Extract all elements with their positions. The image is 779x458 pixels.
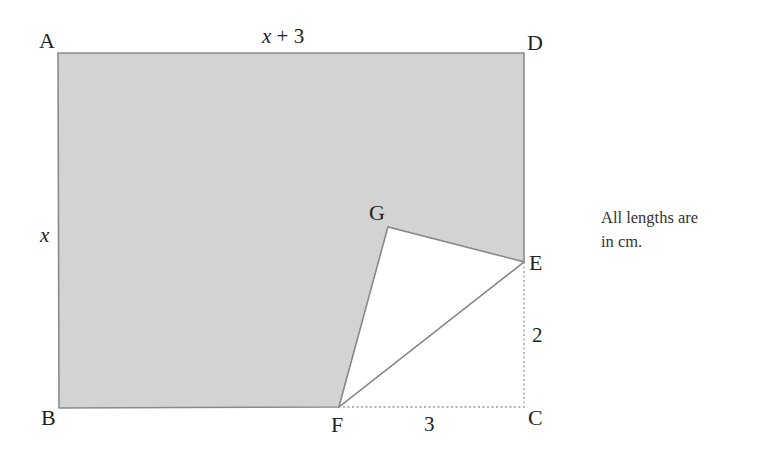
dimension-FC: 3 [424,412,435,436]
dimension-top-rest: + 3 [271,24,304,48]
units-note-line1: All lengths are [601,206,771,230]
units-note: All lengths are in cm. [601,206,771,254]
dimension-EC: 2 [532,323,543,347]
vertex-label-D: D [527,30,543,55]
dimension-top: x + 3 [261,24,304,48]
shaded-region [58,53,524,408]
vertex-label-C: C [528,405,543,430]
vertex-label-F: F [331,412,343,437]
vertex-label-E: E [529,250,542,275]
vertex-label-G: G [369,200,385,225]
vertex-label-B: B [41,405,56,430]
vertex-label-A: A [39,28,55,53]
dimension-left: x [39,223,50,247]
units-note-line2: in cm. [601,230,771,254]
